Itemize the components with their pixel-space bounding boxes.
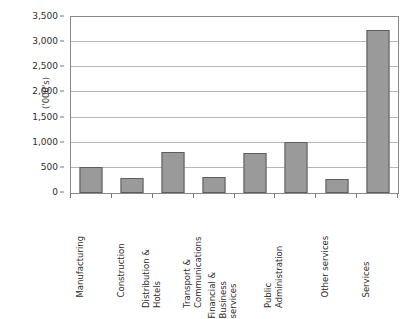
bar-slot [357,17,398,193]
bar[interactable] [366,30,389,193]
y-axis-tick-label: 3,000 [32,36,58,46]
y-axis-tick-label: 2,000 [32,86,58,96]
x-axis-label-line: Distribution & [141,249,152,308]
x-axis-tick-mark [397,193,398,198]
x-label-slot: Other services [315,199,356,289]
x-axis-tick-mark [274,193,275,198]
y-axis-tick-mark [60,192,64,193]
bar[interactable] [284,142,307,193]
bar-slot [275,17,316,193]
bar-slot [71,17,112,193]
y-axis-tick-label: 2,500 [32,61,58,71]
y-axis-tick-mark [60,41,64,42]
x-axis-label-line: Transport & [182,237,193,308]
x-axis-label-line: Other services [320,236,331,298]
y-axis-tick-mark [60,66,64,67]
x-axis-category-label: Other services [320,236,331,298]
x-axis-tick-mark [315,193,316,198]
x-axis-label-line: Public [263,246,274,308]
x-axis-category-label: Construction [116,243,127,297]
x-axis-label-line: Business [217,272,228,319]
x-axis-label-line: Construction [116,243,127,297]
x-axis-tick-mark [193,193,194,198]
x-axis-tick-marks [70,193,399,198]
x-axis-label-line: Financial & [207,272,218,319]
y-axis-tick-labels: 05001,0001,5002,0002,5003,0003,500 [0,12,64,196]
plot-area [70,16,399,194]
x-axis-category-label: Distribution &Hotels [141,249,162,308]
x-axis-tick-mark [234,193,235,198]
bar[interactable] [243,153,266,193]
x-axis-tick-mark [70,193,71,198]
bar[interactable] [162,152,185,193]
x-axis-category-label: Services [361,262,372,298]
x-axis-category-label: Financial &Businessservices [207,272,239,319]
x-axis-label-line: services [228,272,239,319]
x-axis-category-label: PublicAdministration [263,246,284,308]
y-axis-tick-label: 1,000 [32,137,58,147]
x-axis-category-label: Manufacturing [75,236,86,298]
y-axis-tick-mark [60,141,64,142]
x-label-slot: Manufacturing [70,199,111,289]
bar-slot [235,17,276,193]
bars-layer [71,17,398,193]
y-axis-tick-mark [60,16,64,17]
x-axis-label-line: Services [361,262,372,298]
y-axis-tick-label: 500 [41,162,58,172]
bar[interactable] [325,179,348,193]
bar[interactable] [203,177,226,193]
y-axis-tick-mark [60,166,64,167]
x-label-slot: PublicAdministration [274,199,315,289]
x-axis-tick-mark [356,193,357,198]
bar-slot [316,17,357,193]
y-axis-tick-label: 0 [52,187,58,197]
x-axis-label-line: Administration [274,246,285,308]
bar[interactable] [121,178,144,193]
x-axis-label-line: Communications [192,237,203,308]
x-label-slot: Services [356,199,397,289]
y-axis-tick-mark [60,116,64,117]
bar-slot [194,17,235,193]
bar[interactable] [80,167,103,193]
x-axis-tick-mark [152,193,153,198]
y-axis-tick-label: 1,500 [32,112,58,122]
x-axis-label-line: Manufacturing [75,236,86,298]
y-axis-tick-mark [60,91,64,92]
x-axis-category-label: Transport &Communications [182,237,203,308]
x-axis-tick-mark [111,193,112,198]
x-axis-label-line: Hotels [151,249,162,308]
bar-slot [153,17,194,193]
bar-slot [112,17,153,193]
y-axis-tick-label: 3,500 [32,11,58,21]
x-axis-category-labels: ManufacturingConstructionDistribution &H… [70,199,397,289]
